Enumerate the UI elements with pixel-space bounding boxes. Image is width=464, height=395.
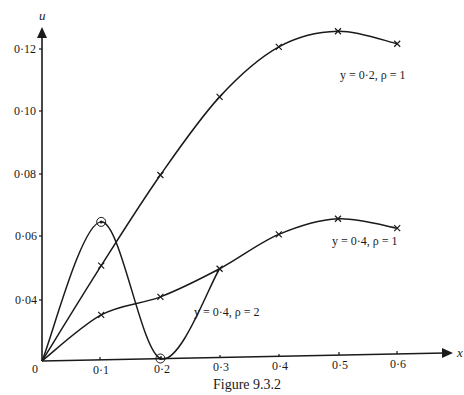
cross-marker-icon — [98, 263, 104, 269]
x-tick-label: 0·3 — [213, 360, 229, 374]
x-tick-label: 0·5 — [332, 358, 348, 372]
x-axis-label: x — [456, 345, 463, 360]
x-axis — [42, 353, 445, 361]
x-tick-label: 0·6 — [390, 357, 406, 371]
x-tick-label: 0·2 — [154, 362, 170, 376]
y-tick-label: 0·04 — [15, 293, 37, 307]
figure-caption: Figure 9.3.2 — [0, 377, 464, 393]
x-tick-label: 0·4 — [272, 359, 288, 373]
y-tick-label: 0·12 — [14, 42, 36, 56]
y-tick-label: 0·06 — [15, 229, 37, 243]
cross-marker-icon — [157, 172, 163, 178]
chart: 0·12 0·10 0·08 0·06 0·04 0 0·1 0·2 0·3 0… — [0, 0, 464, 395]
origin-label: 0 — [32, 362, 38, 376]
y-tick-label: 0·08 — [14, 167, 36, 181]
series-line — [42, 222, 220, 361]
x-axis-arrow-icon — [442, 348, 453, 358]
series-label-y02-rho1: y = 0·2, ρ = 1 — [340, 68, 406, 82]
cross-marker-icon — [276, 231, 282, 237]
y-axis-arrow-icon — [37, 27, 47, 38]
dot-marker-icon — [100, 220, 103, 223]
cross-marker-icon — [98, 312, 104, 318]
cross-marker-icon — [217, 266, 223, 272]
dot-marker-icon — [159, 357, 162, 360]
series-y04-rho2 — [42, 217, 220, 363]
y-axis-label: u — [39, 8, 46, 23]
x-tick-label: 0·1 — [93, 363, 109, 377]
cross-marker-icon — [276, 44, 282, 50]
y-tick-labels: 0·12 0·10 0·08 0·06 0·04 — [14, 42, 37, 307]
cross-marker-icon — [217, 94, 223, 100]
series-label-y04-rho2: y = 0·4, ρ = 2 — [194, 305, 260, 319]
series-label-y04-rho1: y = 0·4, ρ = 1 — [332, 234, 398, 248]
y-tick-label: 0·10 — [14, 104, 36, 118]
